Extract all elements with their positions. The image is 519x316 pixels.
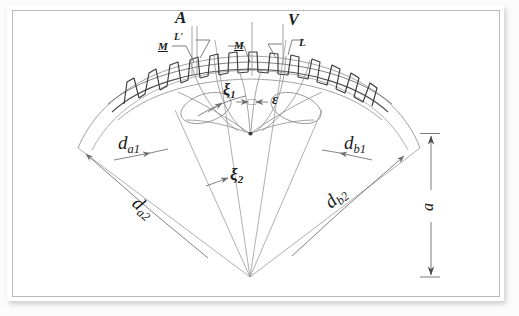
radial-construction-lines — [78, 40, 420, 277]
label-center-distance-a: a — [419, 203, 437, 211]
label-xi1: ξ1 — [223, 81, 235, 100]
label-da1: da1 — [118, 132, 140, 157]
label-L: L — [299, 36, 306, 48]
gear-center-point — [248, 131, 252, 135]
label-L-prime: L' — [174, 31, 183, 42]
label-V: V — [288, 11, 299, 29]
label-M-left: M — [158, 40, 168, 52]
db2-leader — [292, 156, 404, 256]
label-db1: db1 — [344, 132, 366, 157]
label-A: A — [175, 8, 186, 28]
xi2-angle-arrow — [206, 178, 228, 186]
label-M-right: M — [234, 39, 244, 51]
label-epsilon: ε — [272, 92, 278, 108]
gear-pitch-arc — [108, 62, 392, 104]
technical-drawing-canvas — [0, 0, 519, 316]
screenshot-stage: A L' M M L V ξ1 ε ξ2 da1 db1 da2 db2 a — [0, 0, 519, 316]
epsilon-dimension-arrow — [236, 100, 268, 105]
label-xi2: ξ2 — [230, 165, 243, 185]
